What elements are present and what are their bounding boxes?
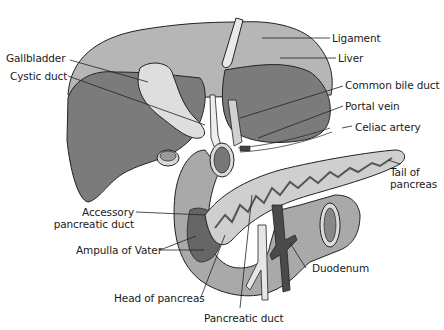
label-tail-of-pancreas-1: Tail of bbox=[390, 166, 420, 178]
label-accessory-pancreatic-duct-2: pancreatic duct bbox=[30, 218, 134, 230]
label-celiac-artery: Celiac artery bbox=[355, 121, 421, 133]
label-duodenum: Duodenum bbox=[312, 262, 369, 274]
label-ampulla-of-vater: Ampulla of Vater bbox=[76, 244, 162, 256]
label-gallbladder: Gallbladder bbox=[6, 52, 65, 64]
label-accessory-pancreatic-duct-1: Accessory bbox=[60, 206, 134, 218]
label-cystic-duct: Cystic duct bbox=[10, 70, 67, 82]
label-common-bile-duct: Common bile duct bbox=[345, 79, 440, 91]
anatomy-diagram bbox=[0, 0, 444, 330]
label-liver: Liver bbox=[338, 52, 363, 64]
label-tail-of-pancreas-2: pancreas bbox=[390, 178, 437, 190]
label-head-of-pancreas: Head of pancreas bbox=[114, 292, 205, 304]
label-ligament: Ligament bbox=[332, 32, 381, 44]
label-pancreatic-duct: Pancreatic duct bbox=[204, 312, 284, 324]
label-portal-vein: Portal vein bbox=[345, 100, 400, 112]
